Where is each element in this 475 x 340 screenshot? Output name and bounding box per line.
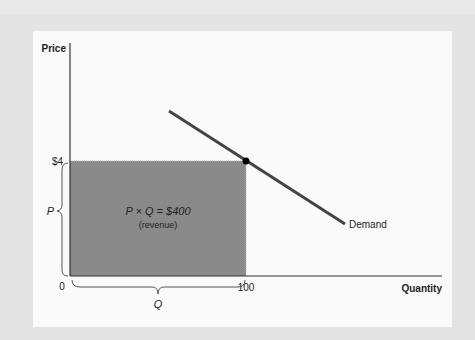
equilibrium-point: [243, 158, 250, 165]
demand-label: Demand: [349, 219, 387, 230]
quantity-brace: [72, 280, 245, 294]
price-tick-label: $4: [52, 156, 64, 167]
y-axis-label: Price: [42, 43, 67, 54]
revenue-note: (revenue): [139, 220, 178, 230]
quantity-tick-label: 100: [238, 282, 255, 293]
revenue-formula: P × Q = $400: [125, 205, 191, 217]
price-brace: [57, 163, 68, 276]
x-axis-label: Quantity: [401, 283, 442, 294]
revenue-chart: Price Quantity 0 $4 100 P Q P × Q = $400…: [0, 0, 475, 340]
revenue-area: [70, 161, 246, 276]
p-brace-label: P: [47, 205, 55, 217]
origin-label: 0: [59, 281, 65, 292]
q-brace-label: Q: [154, 298, 163, 310]
